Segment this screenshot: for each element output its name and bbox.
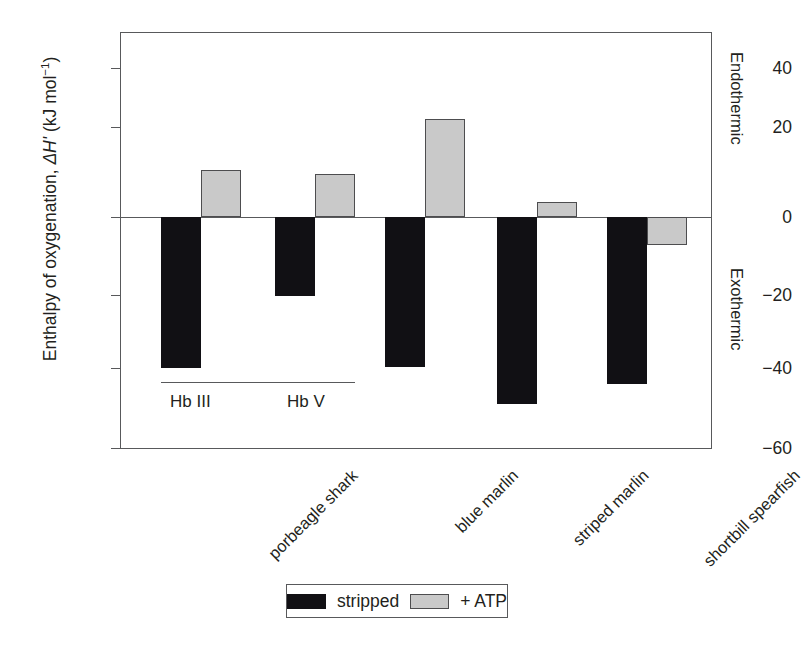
legend-swatch-stripped xyxy=(287,594,326,609)
bar-atp-shortbill-spearfish xyxy=(647,217,687,245)
x-axis-label-shortbill-spearfish: shortbill spearfish xyxy=(700,466,804,570)
legend-label-stripped: stripped xyxy=(337,591,399,612)
y-axis-title-exponent: −1 xyxy=(39,63,51,76)
bar-atp-porbeagle-hb5 xyxy=(315,174,355,217)
legend: stripped + ATP xyxy=(286,584,508,618)
x-axis-label-striped-marlin: striped marlin xyxy=(569,466,652,549)
bar-stripped-porbeagle-hb5 xyxy=(275,217,315,296)
hb5-label: Hb V xyxy=(287,392,325,412)
y-tick-label-n40: −40 xyxy=(734,360,792,378)
bar-stripped-blue-marlin xyxy=(385,217,425,367)
y-tick-label-0: 0 xyxy=(734,209,792,227)
bar-atp-porbeagle-hb3 xyxy=(201,170,241,217)
exothermic-label: Exothermic xyxy=(727,268,746,351)
hb3-label: Hb III xyxy=(170,392,211,412)
hb-bracket-line xyxy=(161,382,355,383)
y-tick-label-n60: −60 xyxy=(734,440,792,458)
bar-atp-blue-marlin xyxy=(425,119,465,217)
endothermic-label: Endothermic xyxy=(727,52,746,145)
bar-atp-striped-marlin xyxy=(537,202,577,217)
y-axis-title-units: (kJ mol xyxy=(40,76,60,137)
bar-stripped-striped-marlin xyxy=(497,217,537,404)
y-axis-title-units-close: ) xyxy=(40,57,60,63)
x-axis-label-blue-marlin: blue marlin xyxy=(452,466,523,537)
bar-stripped-porbeagle-hb3 xyxy=(161,217,201,368)
y-axis-title: Enthalpy of oxygenation, ΔH' (kJ mol−1) xyxy=(39,0,61,419)
bar-stripped-shortbill-spearfish xyxy=(607,217,647,384)
legend-swatch-atp xyxy=(410,594,449,609)
y-axis-title-prefix: Enthalpy of oxygenation, xyxy=(40,165,60,362)
y-axis-title-symbol: ΔH' xyxy=(40,137,60,165)
legend-label-atp: + ATP xyxy=(460,591,507,612)
x-axis-label-porbeagle-shark: porbeagle shark xyxy=(265,466,362,563)
